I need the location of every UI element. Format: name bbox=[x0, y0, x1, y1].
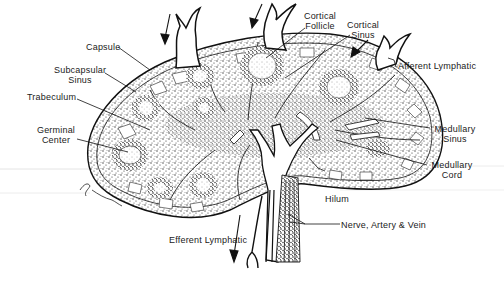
follicle bbox=[366, 139, 390, 157]
label-medullary-cord: Medullary Cord bbox=[425, 160, 479, 180]
follicle bbox=[240, 46, 284, 86]
label-subcapsular-sinus: Subcapsular Sinus bbox=[54, 65, 106, 85]
follicle bbox=[112, 139, 148, 171]
label-medullary-sinus-line2: Sinus bbox=[428, 134, 482, 144]
label-subcapsular-sinus-line2: Sinus bbox=[54, 75, 106, 85]
follicle bbox=[147, 177, 173, 199]
follicle bbox=[193, 97, 215, 119]
label-germinal-center-line2: Center bbox=[36, 135, 76, 145]
label-cortical-sinus: Cortical Sinus bbox=[343, 20, 383, 40]
label-afferent-lymphatic: Afferent Lymphatic bbox=[398, 61, 476, 71]
label-trabeculum: Trabeculum bbox=[27, 92, 76, 102]
label-medullary-sinus: Medullary Sinus bbox=[428, 124, 482, 144]
label-germinal-center: Germinal Center bbox=[36, 125, 76, 145]
label-nerve-artery-vein: Nerve, Artery & Vein bbox=[341, 220, 426, 230]
label-medullary-cord-line1: Medullary bbox=[425, 160, 479, 170]
label-hilum: Hilum bbox=[325, 194, 349, 204]
follicle bbox=[132, 95, 160, 121]
label-germinal-center-line1: Germinal bbox=[36, 125, 76, 135]
follicle bbox=[189, 172, 217, 198]
label-cortical-sinus-line1: Cortical bbox=[343, 20, 383, 30]
label-subcapsular-sinus-line1: Subcapsular bbox=[54, 65, 106, 75]
label-cortical-follicle: Cortical Follicle bbox=[300, 11, 340, 31]
label-cortical-sinus-line2: Sinus bbox=[343, 30, 383, 40]
label-capsule: Capsule bbox=[86, 42, 120, 52]
label-cortical-follicle-line2: Follicle bbox=[300, 21, 340, 31]
follicle bbox=[319, 69, 359, 105]
label-cortical-follicle-line1: Cortical bbox=[300, 11, 340, 21]
label-medullary-cord-line2: Cord bbox=[425, 170, 479, 180]
label-efferent-lymphatic: Efferent Lymphatic bbox=[169, 235, 247, 245]
label-medullary-sinus-line1: Medullary bbox=[428, 124, 482, 134]
lymph-node-diagram: Capsule Subcapsular Sinus Trabeculum Ger… bbox=[0, 0, 504, 284]
